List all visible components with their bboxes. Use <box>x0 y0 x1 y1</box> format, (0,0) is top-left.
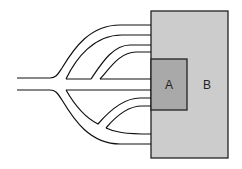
box-b-label: B <box>203 78 211 92</box>
channel-lines <box>17 25 151 144</box>
box-a-label: A <box>165 78 173 92</box>
